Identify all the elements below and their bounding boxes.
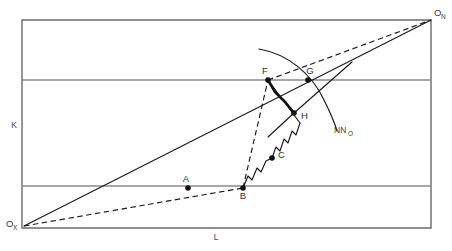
isoquant-diagram: A B C F G H K L O X O N NN O [0, 0, 452, 251]
origin-label-ox-subscript: X [13, 224, 18, 231]
point-markers [185, 77, 311, 191]
grid-lines [22, 80, 431, 186]
curve-label-group: NN O [334, 125, 353, 137]
curve-label-nn-base: NN [334, 125, 346, 135]
origin-label-on-subscript: N [441, 13, 446, 20]
path-f-to-h-thick [268, 80, 294, 113]
arc-through-g [259, 49, 337, 131]
axis-label-l: L [214, 232, 219, 242]
point-label-a: A [183, 173, 190, 184]
curve-label-nn-subscript: O [348, 130, 353, 137]
ray-ox-to-b-dashed [24, 188, 243, 226]
thick-stepped-segment-f-h [268, 80, 294, 113]
point-label-f: F [262, 65, 268, 76]
point-dot-g [305, 77, 311, 83]
point-dot-h [291, 110, 297, 116]
diagram-canvas: A B C F G H K L O X O N NN O [0, 0, 452, 251]
point-label-b: B [240, 190, 246, 201]
point-dot-f [265, 77, 271, 83]
point-dot-a [185, 185, 191, 191]
solid-expansion-ray [24, 20, 431, 226]
point-label-g: G [306, 65, 313, 76]
nn0-arc-curve [259, 49, 337, 131]
corner-origin-labels: O X O N [6, 7, 446, 231]
axis-label-k: K [11, 120, 17, 130]
point-dot-c [269, 155, 275, 161]
segment-h-lower-left [268, 113, 294, 137]
segment-h-upper-right [294, 62, 352, 113]
ray-ox-to-on-solid [24, 20, 431, 226]
ray-f-to-on-dashed [268, 20, 431, 80]
point-label-c: C [278, 149, 285, 160]
point-label-h: H [301, 110, 308, 121]
